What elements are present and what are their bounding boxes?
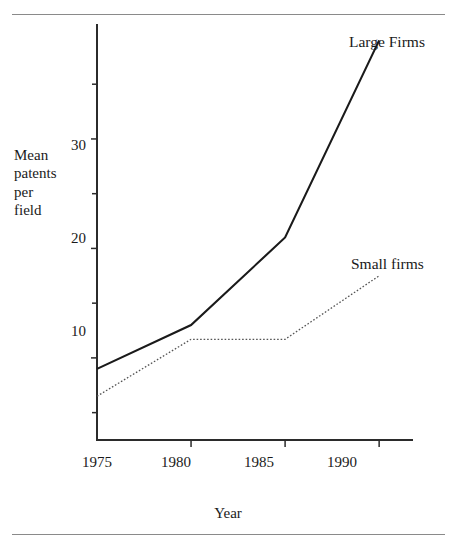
y-axis-label-line-2: patents <box>14 164 57 182</box>
x-tick-label-1980: 1980 <box>150 453 202 471</box>
y-axis-label-line-3: per <box>14 183 57 201</box>
series-label-large-firms: Large Firms <box>349 33 425 51</box>
series-label-small-firms: Small firms <box>351 255 424 273</box>
y-tick-label-20: 20 <box>52 229 86 247</box>
chart-figure: 30 20 10 Mean patents per field 1975 198… <box>0 0 456 547</box>
x-tick-label-1990: 1990 <box>316 453 368 471</box>
y-axis-label-line-1: Mean <box>14 146 57 164</box>
x-tick-label-1975: 1975 <box>71 453 123 471</box>
series-line-small-firms <box>97 276 379 396</box>
y-tick-label-30: 30 <box>52 136 86 154</box>
series-line-large-firms <box>97 40 379 368</box>
x-axis-ticks <box>191 440 379 447</box>
chart-axes <box>96 24 413 441</box>
y-tick-label-10: 10 <box>52 322 86 340</box>
x-tick-label-1985: 1985 <box>233 453 285 471</box>
line-chart-plot <box>0 0 456 547</box>
y-axis-label-line-4: field <box>14 201 57 219</box>
y-axis-label: Mean patents per field <box>14 146 57 219</box>
x-axis-label: Year <box>0 504 456 522</box>
